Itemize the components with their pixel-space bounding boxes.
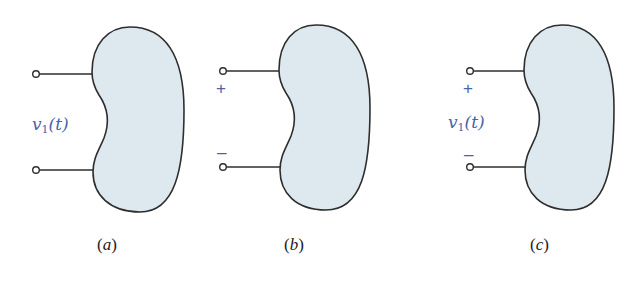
- voltage-label-a: v1(t): [32, 114, 69, 136]
- terminal-bottom-a: [33, 167, 40, 174]
- minus-sign-b: –: [217, 143, 227, 162]
- two-terminal-element-figure: v1(t) (a) + – (b) + v1(t) – (c): [0, 0, 644, 283]
- panel-b: + – (b): [216, 25, 370, 254]
- network-blob-a: [92, 27, 184, 212]
- plus-sign-c: +: [463, 79, 473, 98]
- terminal-top-a: [33, 71, 40, 78]
- voltage-label-c: v1(t): [448, 112, 485, 134]
- terminal-bottom-c: [467, 164, 474, 171]
- caption-a: (a): [97, 235, 117, 254]
- terminal-bottom-b: [220, 164, 227, 171]
- minus-sign-c: –: [464, 145, 474, 164]
- panel-c: + v1(t) – (c): [448, 25, 614, 254]
- panel-a: v1(t) (a): [32, 27, 184, 254]
- network-blob-c: [524, 25, 614, 210]
- network-blob-b: [279, 25, 370, 210]
- plus-sign-b: +: [216, 79, 226, 98]
- terminal-top-c: [467, 68, 474, 75]
- terminal-top-b: [220, 68, 227, 75]
- caption-c: (c): [530, 235, 549, 254]
- caption-b: (b): [284, 235, 304, 254]
